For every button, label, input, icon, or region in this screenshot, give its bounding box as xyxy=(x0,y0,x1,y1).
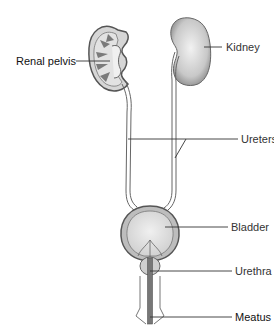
ureters xyxy=(122,52,179,210)
label-meatus: Meatus xyxy=(235,311,271,323)
label-renal-pelvis: Renal pelvis xyxy=(16,55,76,67)
label-bladder: Bladder xyxy=(231,221,269,233)
label-ureters: Ureters xyxy=(241,133,274,145)
label-kidney: Kidney xyxy=(226,41,260,53)
right-kidney xyxy=(171,18,211,86)
leader-lines xyxy=(76,47,238,317)
left-kidney-cross-section xyxy=(89,26,128,91)
label-urethra: Urethra xyxy=(235,265,272,277)
